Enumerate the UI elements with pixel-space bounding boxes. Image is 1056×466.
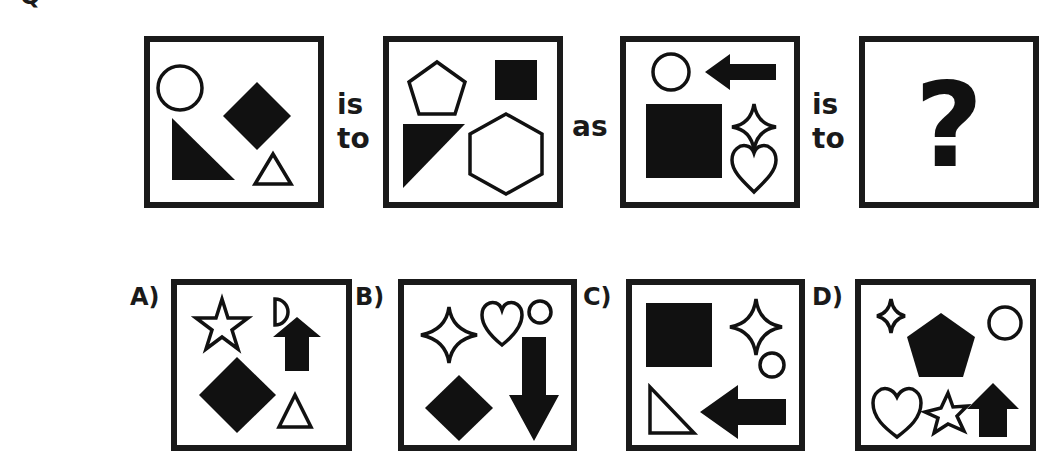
diamond-filled-icon (223, 82, 291, 150)
diamond-filled-icon (425, 375, 493, 441)
right-triangle-filled-icon (403, 124, 465, 188)
question-mark-icon: ? (865, 60, 1033, 190)
option-d-panel[interactable] (855, 279, 1036, 451)
option-c-shapes (632, 285, 799, 445)
arrow-left-filled-icon (700, 385, 786, 439)
square-filled-icon (646, 303, 712, 367)
square-filled-icon (646, 104, 722, 178)
star-outline-icon (925, 393, 967, 433)
triangle-outline-icon (255, 154, 291, 184)
option-c-panel[interactable] (626, 279, 805, 451)
hexagon-outline-icon (470, 114, 542, 194)
option-b-shapes (404, 285, 571, 445)
pentagon-filled-icon (907, 313, 975, 377)
option-b-label: B) (355, 283, 384, 311)
arrow-up-filled-icon (967, 383, 1019, 437)
circle-outline-icon (653, 54, 689, 90)
four-point-star-outline-icon (732, 104, 776, 150)
four-point-star-outline-icon (421, 307, 477, 363)
star-outline-icon (196, 299, 248, 349)
circle-outline-icon (760, 353, 784, 377)
option-b-panel[interactable] (398, 279, 577, 451)
option-a-label: A) (130, 283, 160, 311)
panel-3-shapes (626, 42, 794, 202)
right-triangle-filled-icon (172, 118, 235, 180)
circle-outline-icon (529, 301, 551, 323)
analogy-panel-2 (383, 36, 563, 208)
option-d-shapes (861, 285, 1030, 445)
analogy-panel-unknown: ? (859, 36, 1039, 208)
half-circle-outline-icon (275, 299, 288, 325)
arrow-left-filled-icon (705, 54, 776, 90)
circle-outline-icon (989, 307, 1021, 339)
connector-is-2: is (812, 88, 838, 122)
panel-2-shapes (389, 42, 557, 202)
four-point-star-outline-icon (877, 299, 905, 333)
four-point-star-outline-icon (730, 299, 782, 355)
connector-is: is (337, 88, 363, 122)
square-filled-icon (495, 60, 537, 100)
option-a-shapes (177, 285, 346, 445)
pentagon-outline-icon (409, 62, 465, 114)
triangle-outline-icon (279, 395, 311, 427)
heart-outline-icon (873, 389, 921, 437)
circle-outline-icon (158, 66, 202, 110)
option-c-label: C) (583, 283, 612, 311)
heart-outline-icon (482, 303, 522, 346)
analogy-panel-3 (620, 36, 800, 208)
connector-as: as (572, 110, 608, 144)
connector-to: to (337, 122, 370, 156)
diamond-filled-icon (199, 357, 276, 433)
panel-1-shapes (150, 42, 318, 202)
option-a-panel[interactable] (171, 279, 352, 451)
arrow-down-filled-icon (509, 337, 559, 441)
analogy-panel-1 (144, 36, 324, 208)
heart-outline-icon (732, 146, 776, 192)
right-triangle-outline-icon (650, 387, 694, 433)
connector-to-2: to (812, 122, 845, 156)
question-label-fragment: Q (20, 0, 40, 10)
option-d-label: D) (812, 283, 843, 311)
